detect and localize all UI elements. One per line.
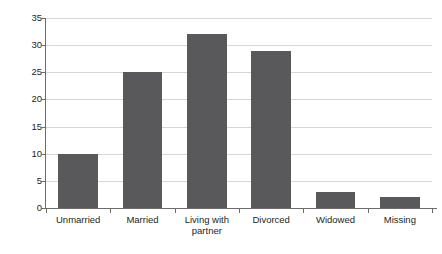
x-axis-category-label: Divorced xyxy=(239,214,303,225)
gridline xyxy=(46,18,432,19)
gridline xyxy=(46,45,432,46)
x-axis-category-label: Unmarried xyxy=(46,214,110,225)
y-axis-tick-label: 0 xyxy=(6,203,42,213)
x-axis-category-label: Living with partner xyxy=(175,214,239,236)
gridline xyxy=(46,99,432,100)
y-axis-tick-label: 5 xyxy=(6,176,42,186)
x-axis-tick-mark xyxy=(46,209,47,213)
x-axis-tick-mark xyxy=(110,209,111,213)
bar-chart-figure: 05101520253035 UnmarriedMarriedLiving wi… xyxy=(0,0,442,254)
y-axis-tick-mark xyxy=(41,127,46,128)
y-axis-tick-mark xyxy=(41,99,46,100)
gridline xyxy=(46,181,432,182)
x-axis-tick-mark xyxy=(303,209,304,213)
y-axis-tick-mark xyxy=(41,154,46,155)
x-axis-tick-mark xyxy=(368,209,369,213)
y-axis-tick-label: 35 xyxy=(6,13,42,23)
y-axis-tick-labels: 05101520253035 xyxy=(0,0,42,254)
y-axis-tick-mark xyxy=(41,72,46,73)
bar xyxy=(316,192,356,208)
plot-area xyxy=(46,18,432,208)
bar xyxy=(187,34,227,208)
y-axis-tick-label: 10 xyxy=(6,149,42,159)
y-axis-tick-mark xyxy=(41,18,46,19)
x-axis-category-label: Married xyxy=(110,214,174,225)
x-axis-category-label: Widowed xyxy=(303,214,367,225)
y-axis-tick-mark xyxy=(41,181,46,182)
y-axis-tick-label: 30 xyxy=(6,40,42,50)
x-axis-category-label: Missing xyxy=(368,214,432,225)
x-axis-tick-mark xyxy=(239,209,240,213)
x-axis-tick-mark xyxy=(175,209,176,213)
bar xyxy=(251,51,291,208)
x-axis-line xyxy=(45,208,437,209)
bar xyxy=(380,197,420,208)
x-axis-tick-mark xyxy=(432,209,433,213)
gridline xyxy=(46,127,432,128)
y-axis-tick-label: 20 xyxy=(6,95,42,105)
gridline xyxy=(46,154,432,155)
gridline xyxy=(46,72,432,73)
y-axis-tick-label: 25 xyxy=(6,68,42,78)
y-axis-tick-mark xyxy=(41,45,46,46)
bar xyxy=(58,154,98,208)
bar xyxy=(123,72,163,208)
y-axis-tick-label: 15 xyxy=(6,122,42,132)
